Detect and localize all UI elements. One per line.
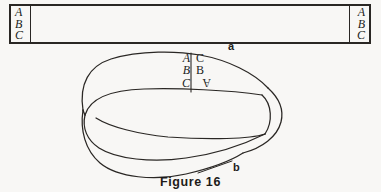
band-top-inner-edge (85, 89, 262, 115)
seam-back-letter-a-inverted: A (196, 77, 211, 89)
label-b: b (233, 161, 240, 173)
seam-front-letter-c: C (175, 77, 190, 89)
seam-front-letter-b: B (175, 64, 190, 76)
seam-back-letter-b: B (196, 64, 211, 76)
band-seam-letters: A B C C B A (175, 52, 211, 89)
band-lower-inner-edge (96, 118, 265, 139)
flat-right-letter-c: C (357, 30, 365, 42)
flat-left-letter-c: C (15, 30, 23, 42)
band-twist-fold-edge (84, 115, 265, 160)
band-seam-front-column: A B C (175, 52, 193, 89)
flat-strip-right-letters: A B C (357, 7, 365, 42)
band-left-twist-junction (83, 110, 85, 115)
flat-strip-left-end: A B C (11, 6, 31, 42)
band-bottom-outer-edge (82, 110, 243, 178)
flat-strip-left-letters: A B C (15, 7, 23, 42)
band-seam-back-column: C B A (193, 52, 211, 89)
figure-caption: Figure 16 (0, 175, 381, 189)
label-b-leader-line (198, 161, 232, 173)
band-right-end-cap (262, 95, 270, 134)
band-right-outer-edge (243, 88, 282, 153)
label-a: a (228, 40, 234, 52)
flat-strip-rectangle: A B C A B C (9, 4, 371, 44)
flat-strip-right-end: A B C (349, 6, 369, 42)
figure-canvas: A B C A B C a (0, 0, 381, 192)
